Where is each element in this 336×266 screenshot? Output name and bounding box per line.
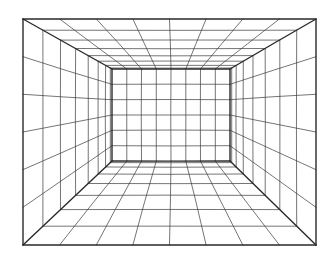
perspective-room-drawing [0,0,336,266]
